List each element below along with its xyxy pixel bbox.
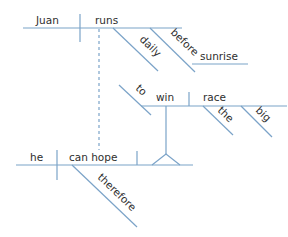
subject-juan: Juan xyxy=(35,14,59,26)
infinitive-to: to xyxy=(134,82,150,98)
subject-he: he xyxy=(30,151,43,163)
verb-runs: runs xyxy=(95,14,118,26)
verb-can-hope: can hope xyxy=(69,151,117,163)
adverb-therefore: therefore xyxy=(96,171,139,213)
object-race: race xyxy=(203,91,226,103)
pedestal xyxy=(152,154,180,165)
preposition-before: before xyxy=(169,26,202,58)
modifier-big: big xyxy=(254,104,274,124)
verb-win: win xyxy=(156,91,174,103)
sentence-diagram: Juan runs daily before sunrise to win ra… xyxy=(0,0,288,237)
object-sunrise: sunrise xyxy=(200,50,238,62)
